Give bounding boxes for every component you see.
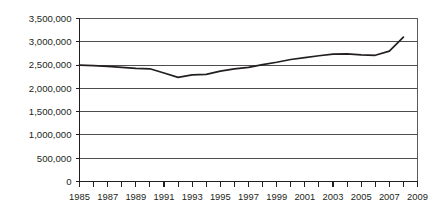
y-tick-label-500000: 500,000 bbox=[37, 153, 72, 164]
y-tick-label-2000000: 2,000,000 bbox=[29, 83, 72, 94]
y-tick-label-1500000: 1,500,000 bbox=[29, 106, 72, 117]
y-tick-label-3500000: 3,500,000 bbox=[29, 13, 72, 24]
x-tick-label-1999: 1999 bbox=[266, 191, 287, 202]
x-tick-label-2003: 2003 bbox=[323, 191, 344, 202]
x-tick-label-2007: 2007 bbox=[379, 191, 400, 202]
gridlines bbox=[80, 19, 418, 159]
x-axis-tick-labels: 1985198719891991199319951997199920012003… bbox=[69, 191, 428, 202]
data-line-1 bbox=[80, 37, 404, 77]
x-tick-label-1995: 1995 bbox=[210, 191, 231, 202]
axis-lines bbox=[80, 19, 418, 182]
y-axis-tick-labels: 0500,0001,000,0001,500,0002,000,0002,500… bbox=[29, 13, 72, 187]
chart-canvas: 0500,0001,000,0001,500,0002,000,0002,500… bbox=[0, 0, 439, 216]
x-tick-label-1989: 1989 bbox=[125, 191, 146, 202]
line-chart: 0500,0001,000,0001,500,0002,000,0002,500… bbox=[0, 0, 439, 216]
x-tick-label-1987: 1987 bbox=[97, 191, 118, 202]
x-tick-label-1993: 1993 bbox=[182, 191, 203, 202]
x-tick-label-2009: 2009 bbox=[407, 191, 428, 202]
y-tick-label-1000000: 1,000,000 bbox=[29, 129, 72, 140]
x-tick-label-1991: 1991 bbox=[154, 191, 175, 202]
x-tick-label-2001: 2001 bbox=[294, 191, 315, 202]
x-tick-label-1997: 1997 bbox=[238, 191, 259, 202]
plot-frame bbox=[80, 19, 418, 182]
data-series bbox=[80, 37, 404, 77]
x-tick-label-1985: 1985 bbox=[69, 191, 90, 202]
y-tick-label-3000000: 3,000,000 bbox=[29, 36, 72, 47]
y-tick-label-2500000: 2,500,000 bbox=[29, 59, 72, 70]
y-tick-label-0: 0 bbox=[66, 176, 71, 187]
x-tick-label-2005: 2005 bbox=[351, 191, 372, 202]
